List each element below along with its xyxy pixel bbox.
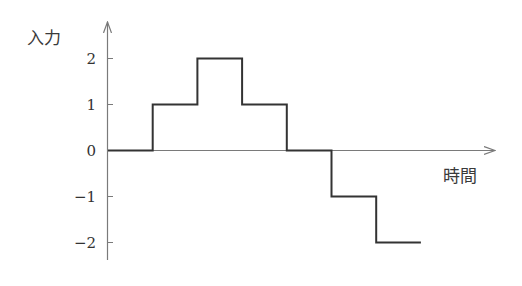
y-axis-label: 入力: [27, 28, 61, 48]
y-tick-label-neg1: −1: [74, 188, 96, 206]
y-tick-label-2: 2: [86, 50, 96, 68]
y-tick-label-neg2: −2: [74, 234, 96, 252]
y-tick-labels: 2 1 0 −1 −2: [74, 50, 96, 252]
y-tick-label-0: 0: [86, 142, 96, 160]
x-axis-label: 時間: [443, 166, 477, 186]
step-input-chart: 入力 時間 2 1 0 −1 −2: [0, 0, 522, 286]
y-tick-label-1: 1: [86, 96, 96, 114]
